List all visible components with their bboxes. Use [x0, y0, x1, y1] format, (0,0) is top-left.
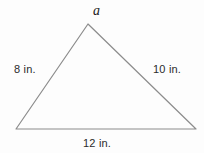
triangle-shape [0, 0, 204, 153]
triangle-outline [16, 24, 196, 129]
left-side-length-label: 8 in. [14, 63, 36, 75]
bottom-side-length-label: 12 in. [83, 137, 111, 149]
right-side-length-label: 10 in. [153, 63, 181, 75]
triangle-figure: a 8 in. 10 in. 12 in. [0, 0, 204, 153]
apex-angle-label: a [93, 3, 100, 18]
